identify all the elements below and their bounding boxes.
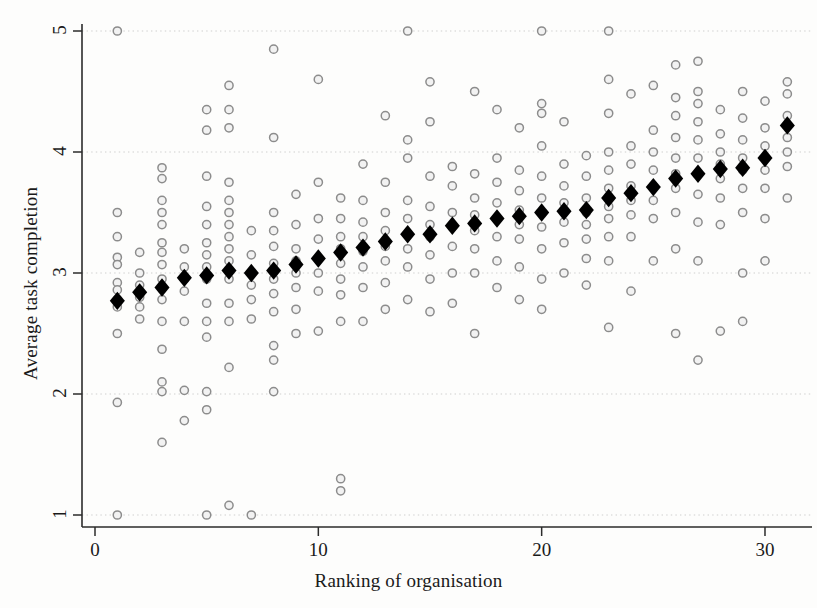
mean-marker-diamond (422, 225, 437, 243)
mean-marker-diamond (534, 203, 549, 221)
data-point-circle (426, 202, 434, 210)
mean-marker-diamond (221, 261, 236, 279)
x-axis-title-text: Ranking of organisation (315, 570, 503, 591)
mean-marker-diamond (110, 292, 125, 310)
data-point-circle (672, 245, 680, 253)
data-point-circle (225, 501, 233, 509)
data-point-circle (672, 208, 680, 216)
data-point-circle (560, 182, 568, 190)
data-point-circle (113, 398, 121, 406)
data-point-circle (672, 61, 680, 69)
data-point-circle (493, 106, 501, 114)
data-point-circle (113, 511, 121, 519)
data-point-circle (180, 417, 188, 425)
data-point-circle (359, 218, 367, 226)
data-point-circle (292, 283, 300, 291)
scatter-plot-svg (0, 0, 817, 608)
data-point-circle (270, 356, 278, 364)
data-point-circle (270, 387, 278, 395)
data-point-circle (627, 287, 635, 295)
data-point-circle (225, 208, 233, 216)
data-point-circle (582, 194, 590, 202)
data-point-circle (739, 87, 747, 95)
data-point-circle (739, 208, 747, 216)
data-point-circle (136, 248, 144, 256)
data-point-circle (359, 283, 367, 291)
mean-marker-diamond (601, 189, 616, 207)
data-point-circle (113, 208, 121, 216)
data-point-circle (158, 438, 166, 446)
data-point-circle (605, 166, 613, 174)
data-point-circle (448, 208, 456, 216)
data-point-circle (314, 214, 322, 222)
data-point-circle (694, 356, 702, 364)
mean-marker-diamond (579, 201, 594, 219)
data-point-circle (337, 487, 345, 495)
data-point-circle (359, 160, 367, 168)
data-point-circle (694, 136, 702, 144)
data-point-circle (761, 166, 769, 174)
data-point-circle (605, 27, 613, 35)
data-point-circle (739, 136, 747, 144)
data-point-circle (448, 269, 456, 277)
y-tick-label: 4 (49, 141, 71, 161)
data-point-circle (515, 187, 523, 195)
data-point-circle (426, 251, 434, 259)
data-point-circle (381, 208, 389, 216)
y-tick-label: 2 (49, 383, 71, 403)
data-point-circle (649, 166, 657, 174)
data-point-circle (761, 142, 769, 150)
data-point-circle (203, 387, 211, 395)
data-point-circle (381, 279, 389, 287)
data-point-circle (649, 148, 657, 156)
data-point-circle (180, 287, 188, 295)
data-point-circle (158, 387, 166, 395)
data-point-circle (292, 329, 300, 337)
data-point-circle (270, 133, 278, 141)
mean-marker-diamond (735, 159, 750, 177)
data-point-circle (203, 239, 211, 247)
data-point-circle (560, 160, 568, 168)
data-point-circle (694, 57, 702, 65)
data-point-circle (426, 275, 434, 283)
data-point-circle (493, 257, 501, 265)
data-point-circle (538, 223, 546, 231)
data-point-circle (582, 235, 590, 243)
data-point-circle (314, 75, 322, 83)
data-point-circle (359, 196, 367, 204)
data-point-circle (672, 93, 680, 101)
data-point-circle (471, 170, 479, 178)
mean-marker-diamond (445, 217, 460, 235)
data-point-circle (761, 184, 769, 192)
data-point-circle (292, 305, 300, 313)
mean-marker-diamond (154, 278, 169, 296)
data-point-circle (203, 172, 211, 180)
mean-marker-diamond (467, 214, 482, 232)
data-point-circle (113, 27, 121, 35)
data-point-circle (761, 97, 769, 105)
data-point-circle (203, 299, 211, 307)
data-point-circle (672, 329, 680, 337)
data-point-circle (270, 242, 278, 250)
data-point-circle (247, 511, 255, 519)
data-point-circle (225, 317, 233, 325)
data-point-circle (716, 130, 724, 138)
data-point-circle (739, 317, 747, 325)
y-tick-label: 5 (49, 20, 71, 40)
data-point-circle (783, 90, 791, 98)
data-point-circle (113, 260, 121, 268)
data-point-circle (404, 263, 412, 271)
data-point-circle (136, 269, 144, 277)
data-point-circle (538, 100, 546, 108)
data-point-circle (605, 214, 613, 222)
data-point-circle (694, 257, 702, 265)
mean-marker-diamond (489, 209, 504, 227)
data-point-circle (672, 112, 680, 120)
data-point-circle (649, 257, 657, 265)
data-point-circle (471, 87, 479, 95)
data-point-circle (270, 45, 278, 53)
data-point-circle (381, 305, 389, 313)
data-point-circle (515, 235, 523, 243)
data-point-circle (761, 214, 769, 222)
data-point-circle (158, 345, 166, 353)
